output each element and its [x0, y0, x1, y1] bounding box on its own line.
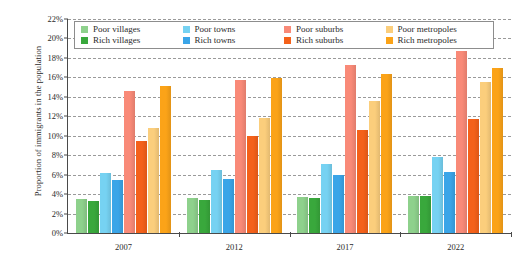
- legend-label: Rich towns: [195, 36, 236, 45]
- legend-swatch-icon: [183, 37, 190, 44]
- x-axis-tick: [511, 232, 512, 237]
- x-tick-label: 2017: [336, 242, 353, 252]
- legend-item[interactable]: Rich villages: [81, 36, 183, 45]
- legend-swatch-icon: [284, 37, 291, 44]
- legend-label: Rich suburbs: [296, 36, 343, 45]
- legend-swatch-icon: [81, 37, 88, 44]
- y-tick-label: 6%: [52, 170, 63, 180]
- y-tick-label: 4%: [52, 189, 63, 199]
- legend-label: Rich metropoles: [398, 36, 457, 45]
- x-axis-tick: [290, 232, 291, 237]
- y-tick-label: 20%: [47, 33, 63, 43]
- legend-item[interactable]: Rich suburbs: [284, 36, 386, 45]
- y-tick-label: 10%: [47, 131, 63, 141]
- legend-item[interactable]: Poor villages: [81, 25, 183, 34]
- legend-label: Poor metropoles: [398, 25, 457, 34]
- y-tick-label: 16%: [47, 72, 63, 82]
- legend-item[interactable]: Rich metropoles: [386, 36, 488, 45]
- y-tick-label: 12%: [47, 111, 63, 121]
- legend-label: Rich villages: [93, 36, 140, 45]
- legend-label: Poor suburbs: [296, 25, 343, 34]
- y-tick-label: 14%: [47, 92, 63, 102]
- bar-chart: Proportion of immigrants in the populati…: [0, 0, 521, 266]
- y-tick-label: 18%: [47, 53, 63, 63]
- y-tick-label: 2%: [52, 209, 63, 219]
- x-axis-tick: [179, 232, 180, 237]
- y-tick-label: 0%: [52, 228, 63, 238]
- x-axis-ticks: 2007201220172022: [68, 19, 511, 233]
- x-tick-label: 2012: [226, 242, 243, 252]
- x-axis-tick: [400, 232, 401, 237]
- legend-item[interactable]: Rich towns: [183, 36, 285, 45]
- plot-area: 0%2%4%6%8%10%12%14%16%18%20%22% 20072012…: [67, 19, 511, 234]
- legend-item[interactable]: Poor towns: [183, 25, 285, 34]
- legend-item[interactable]: Poor suburbs: [284, 25, 386, 34]
- legend-label: Poor villages: [93, 25, 140, 34]
- legend-item[interactable]: Poor metropoles: [386, 25, 488, 34]
- legend: Poor villagesPoor townsPoor suburbsPoor …: [74, 21, 494, 49]
- x-tick-label: 2007: [115, 242, 132, 252]
- legend-swatch-icon: [81, 26, 88, 33]
- legend-swatch-icon: [386, 37, 393, 44]
- legend-swatch-icon: [284, 26, 291, 33]
- y-tick-label: 8%: [52, 150, 63, 160]
- legend-swatch-icon: [386, 26, 393, 33]
- x-tick-label: 2022: [447, 242, 464, 252]
- y-tick-label: 22%: [47, 14, 63, 24]
- legend-swatch-icon: [183, 26, 190, 33]
- y-axis-title: Proportion of immigrants in the populati…: [33, 6, 43, 236]
- legend-label: Poor towns: [195, 25, 236, 34]
